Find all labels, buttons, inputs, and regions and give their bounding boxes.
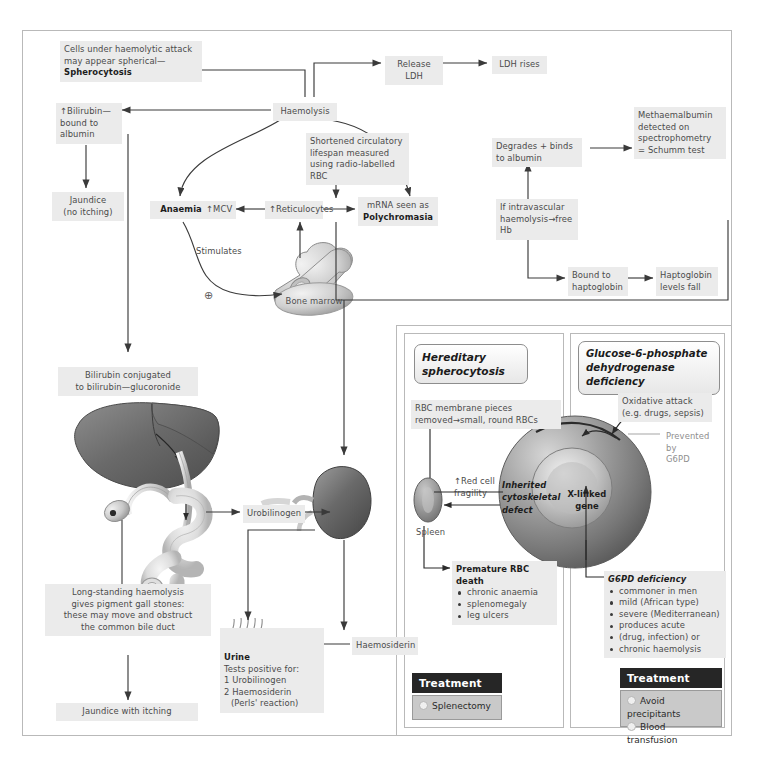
haptoglobin-fall-box: Haptoglobin levels fall	[656, 267, 718, 296]
spherocyte-icon	[414, 478, 442, 522]
g6pd-treatment-header: Treatment	[620, 668, 722, 688]
spherocytosis-note-text: Cells under haemolytic attack may appear…	[64, 44, 192, 66]
haemolysis-box: Haemolysis	[273, 103, 337, 121]
prevented-by-g6pd-label: Prevented by G6PD	[662, 428, 726, 469]
bilirubin-conjugated-box: Bilirubin conjugated to bilirubin—glucor…	[58, 367, 198, 396]
shortened-lifespan-box: Shortened circulatory lifespan measured …	[306, 133, 409, 185]
premature-rbc-bullets: chronic anaemia splenomegaly leg ulcers	[456, 587, 553, 622]
list-item: leg ulcers	[467, 610, 553, 622]
long-standing-haemolysis-box: Long-standing haemolysis gives pigment g…	[45, 584, 211, 636]
stimulates-label: Stimulates	[192, 243, 246, 261]
g6pd-deficiency-box: G6PD deficiency commoner in men mild (Af…	[604, 571, 726, 658]
inherited-cytoskeletal-defect-label: Inherited cytoskeletal defect	[498, 476, 566, 519]
list-item: mild (African type)	[619, 597, 722, 609]
list-item: (drug, infection) or	[619, 632, 722, 644]
urine-box: Urine Tests positive for: 1 Urobilinogen…	[220, 628, 324, 713]
intravascular-box: If intravascular haemolysis→free Hb	[496, 199, 578, 240]
g6pd-treatment-body: Avoid precipitants Blood transfusion	[620, 690, 722, 727]
hs-treatment-body: Splenectomy	[412, 695, 502, 720]
mcv-box: ↑MCV	[202, 201, 236, 219]
plus-sign-label: ⊕	[200, 287, 214, 305]
bullet-dot-icon	[627, 722, 636, 731]
x-linked-gene-label: X-linked gene	[563, 486, 611, 515]
oxidative-attack-box: Oxidative attack (e.g. drugs, sepsis)	[618, 393, 712, 422]
hereditary-spherocytosis-title: Hereditary spherocytosis	[414, 344, 528, 384]
haemosiderin-box: Haemosiderin	[352, 637, 418, 655]
jaundice-with-itching-box: Jaundice with itching	[56, 703, 198, 721]
g6pd-title: Glucose-6-phosphate dehydrogenase defici…	[578, 341, 720, 395]
list-item: chronic haemolysis	[619, 644, 722, 656]
jaundice-no-itching-box: Jaundice (no itching)	[52, 192, 124, 221]
methaemalbumin-box: Methaemalbumin detected on spectrophomet…	[634, 107, 726, 159]
diagram-canvas: Cells under haemolytic attack may appear…	[0, 0, 762, 767]
urobilinogen-box: Urobilinogen	[243, 505, 305, 523]
mrna-polychromasia-box: mRNA seen as Polychromasia	[358, 197, 438, 226]
list-item: severe (Mediterranean)	[619, 609, 722, 621]
list-item: splenomegaly	[467, 599, 553, 611]
list-item: commoner in men	[619, 586, 722, 598]
list-item: produces acute	[619, 620, 722, 632]
spherocytosis-term: Spherocytosis	[64, 67, 132, 77]
bone-marrow-label: Bone marrow	[280, 293, 348, 311]
release-ldh-box: Release LDH	[385, 56, 443, 85]
bullet-dot-icon	[627, 696, 636, 705]
bullet-dot-icon	[419, 701, 428, 710]
degrades-binds-box: Degrades + binds to albumin	[492, 138, 582, 167]
reticulocytes-box: ↑Reticulocytes	[265, 201, 323, 219]
g6pd-deficiency-bullets: commoner in men mild (African type) seve…	[608, 586, 722, 656]
bound-haptoglobin-box: Bound to haptoglobin	[568, 267, 628, 296]
ldh-rises-box: LDH rises	[492, 56, 547, 74]
bilirubin-box: ↑Bilirubin— bound to albumin	[56, 103, 122, 144]
liver-icon	[75, 403, 220, 489]
hs-treatment-header: Treatment	[412, 673, 502, 693]
rbc-membrane-box: RBC membrane pieces removed→small, round…	[411, 400, 561, 429]
list-item: chronic anaemia	[467, 587, 553, 599]
premature-rbc-death-box: Premature RBC death chronic anaemia sple…	[452, 561, 557, 625]
spleen-label: Spleen	[412, 524, 454, 542]
hs-treatment-item[interactable]: Splenectomy	[432, 701, 491, 711]
spherocytosis-note: Cells under haemolytic attack may appear…	[60, 41, 202, 82]
kidney-icon	[262, 467, 371, 539]
